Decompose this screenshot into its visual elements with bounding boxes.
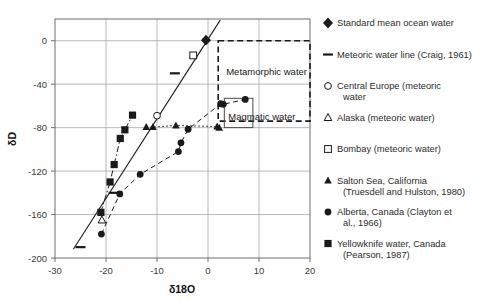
data-point-filled-square <box>106 178 113 185</box>
series-data-points <box>76 35 249 247</box>
x-tick-label: -10 <box>150 265 164 276</box>
data-point-open-triangle <box>98 216 106 223</box>
x-tick-label: -30 <box>48 265 62 276</box>
y-tick-label: -120 <box>28 166 47 177</box>
x-tick-labels: -30-20-1001020 <box>48 265 315 276</box>
metamorphic-water-label: Metamorphic water <box>226 66 307 77</box>
y-tick-labels: 0-40-80-120-160-200 <box>28 35 47 263</box>
data-point-filled-triangle <box>142 123 150 130</box>
y-tick-label: -160 <box>28 209 47 220</box>
legend-label-continued: (Pearson, 1987) <box>343 250 410 260</box>
plot-frame <box>55 19 310 258</box>
legend-label: Salton Sea, California <box>337 176 428 186</box>
legend-marker-open-circle <box>325 83 332 90</box>
legend-label: Alaska (meteoric water) <box>337 113 435 123</box>
legend-label: Yellowknife water, Canada <box>337 239 447 249</box>
data-point-filled-circle <box>175 148 182 155</box>
legend-label: Standard mean ocean water <box>337 18 454 28</box>
data-point-filled-square <box>117 135 124 142</box>
metamorphic-water-region <box>218 41 310 121</box>
legend-marker-open-square <box>325 146 332 153</box>
legend-marker-filled-diamond <box>323 18 333 29</box>
legend-label-continued: water <box>342 92 366 102</box>
legend-marker-filled-circle <box>325 209 332 216</box>
annotation-labels: Metamorphic waterMagmatic water <box>226 66 307 122</box>
y-tick-label: 0 <box>42 35 47 46</box>
data-point-filled-circle <box>242 96 249 103</box>
data-point-filled-square <box>111 161 118 168</box>
magmatic-water-label: Magmatic water <box>228 111 295 122</box>
x-tick-label: 10 <box>254 265 265 276</box>
gridlines <box>55 19 310 258</box>
chart-legend: Standard mean ocean waterMeteoric water … <box>323 18 472 260</box>
data-point-filled-circle <box>98 231 105 238</box>
data-point-filled-triangle <box>172 121 180 128</box>
data-point-open-square <box>190 52 197 59</box>
series-connector-line <box>101 99 245 234</box>
data-point-open-circle <box>154 112 161 119</box>
chart-svg: -30-20-1001020 0-40-80-120-160-200 Metam… <box>0 0 479 305</box>
data-point-filled-circle <box>116 191 123 198</box>
x-axis-title: δ18O <box>169 283 195 295</box>
y-axis-title: δD <box>6 132 18 146</box>
data-point-filled-square <box>97 209 104 216</box>
x-tick-label: 0 <box>205 265 210 276</box>
legend-marker-filled-square <box>324 240 331 247</box>
legend-label: Meteoric water line (Craig, 1961) <box>337 50 472 60</box>
data-point-filled-circle <box>220 101 227 108</box>
data-point-filled-circle <box>178 139 185 146</box>
legend-label-continued: al., 1966) <box>343 218 382 228</box>
legend-label: Bombay (meteoric water) <box>337 144 441 154</box>
y-tick-label: -80 <box>33 122 47 133</box>
legend-label: Central Europe (meteoric <box>337 81 441 91</box>
data-point-filled-square <box>129 112 136 119</box>
data-point-filled-square <box>121 126 128 133</box>
chart-figure: -30-20-1001020 0-40-80-120-160-200 Metam… <box>0 0 479 305</box>
y-tick-label: -40 <box>33 79 47 90</box>
data-point-filled-circle <box>137 171 144 178</box>
legend-marker-open-triangle <box>324 114 332 121</box>
x-tick-label: 20 <box>305 265 316 276</box>
y-tick-label: -200 <box>28 253 47 264</box>
legend-marker-filled-triangle <box>324 177 332 184</box>
legend-label-continued: (Truesdell and Hulston, 1980) <box>343 187 465 197</box>
x-tick-label: -20 <box>99 265 113 276</box>
legend-label: Alberta, Canada (Clayton et <box>337 207 452 217</box>
data-point-filled-circle <box>185 126 192 133</box>
